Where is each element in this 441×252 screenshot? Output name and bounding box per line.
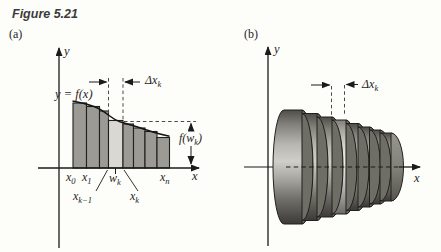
panel-a-riemann-rectangles: y x y = f(x) Δxk f(wk) x0 x1 wk xn xk−1 … <box>38 44 202 248</box>
panel-b-shapes <box>244 47 420 246</box>
tick-label-xk-minus-1: xk−1 <box>72 189 92 205</box>
panel-a-delta-x-label: Δxk <box>144 73 161 89</box>
panel-b-delta-x-label: Δxk <box>361 77 378 93</box>
panel-b-solid-of-revolution: y x Δxk <box>244 42 420 246</box>
tick-label-xn: xn <box>159 170 170 186</box>
panel-a-y-axis-label: y <box>62 44 70 58</box>
textbook-figure: Figure 5.21 (a) (b) y x y = f(x) Δxk f(w… <box>0 0 441 252</box>
panel-a-tag: (a) <box>9 27 22 41</box>
figure-title: Figure 5.21 <box>12 7 78 21</box>
panel-b-x-axis-label: x <box>413 171 420 185</box>
f-wk-height-label: f(wk) <box>179 131 202 147</box>
panel-a-shapes <box>38 48 199 248</box>
figure-canvas: Figure 5.21 (a) (b) y x y = f(x) Δxk f(w… <box>0 0 441 252</box>
tick-label-x1: x1 <box>81 170 92 186</box>
tick-label-xk: xk <box>129 189 139 205</box>
panel-b-y-axis-label: y <box>272 42 280 56</box>
tick-label-wk: wk <box>109 171 121 187</box>
tick-label-x0: x0 <box>65 170 76 186</box>
panel-b-tag: (b) <box>244 27 258 41</box>
panel-a-x-axis-label: x <box>191 169 198 183</box>
curve-equation-label: y = f(x) <box>53 87 93 101</box>
